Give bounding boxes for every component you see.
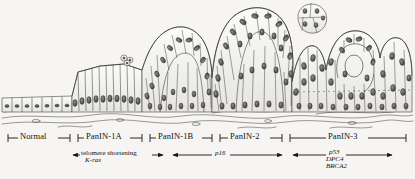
gene-label-p16: p16 xyxy=(215,150,226,158)
stage-label-panin-1b: PanIN-1B xyxy=(158,132,193,141)
gene-label-brca2: BRCA2 xyxy=(326,163,347,171)
stage-label-panin-1a: PanIN-1A xyxy=(86,132,122,141)
stage-label-panin-2: PanIN-2 xyxy=(230,132,260,141)
gene-label-kras: K-ras xyxy=(85,157,101,165)
stage-label-normal: Normal xyxy=(20,132,47,141)
normal-flat-epithelium xyxy=(2,96,72,112)
panin-progression-figure: Normal PanIN-1A PanIN-1B PanIN-2 PanIN-3… xyxy=(0,0,415,179)
stage-label-panin-3: PanIN-3 xyxy=(328,132,358,141)
histology-illustration xyxy=(0,0,415,132)
